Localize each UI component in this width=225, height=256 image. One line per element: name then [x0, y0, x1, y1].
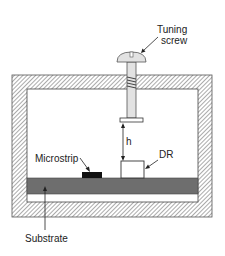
tuning-screw-label-line1: Tuning — [157, 24, 187, 35]
dr-cavity-diagram: h Tuning screw Microstrip DR Substrate — [0, 0, 225, 256]
substrate-label: Substrate — [25, 233, 68, 244]
screw-shaft — [127, 62, 136, 118]
dr-label: DR — [159, 149, 173, 160]
screw-slot — [130, 52, 133, 57]
screw-tip-plate — [120, 118, 143, 122]
dielectric-resonator — [121, 161, 144, 178]
microstrip-label: Microstrip — [35, 153, 79, 164]
microstrip — [82, 172, 102, 178]
enclosure — [12, 75, 212, 217]
substrate — [27, 178, 198, 194]
h-label: h — [126, 136, 132, 147]
tuning-screw-label-line2: screw — [161, 35, 188, 46]
tuning-screw-leader — [141, 37, 158, 53]
